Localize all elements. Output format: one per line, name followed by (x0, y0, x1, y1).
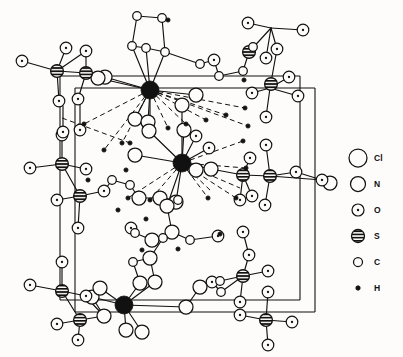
atom-c (108, 176, 117, 185)
atom-o (56, 256, 68, 268)
atom-n (97, 309, 111, 323)
legend-label-c: C (374, 257, 380, 267)
atom-h (176, 247, 180, 251)
atom-h (204, 118, 208, 122)
atom-n (160, 199, 174, 213)
atom-o (260, 111, 272, 123)
atom-s (74, 190, 87, 203)
atom-c (131, 229, 140, 238)
atom-o (80, 163, 92, 175)
atom-h (86, 178, 90, 182)
atom-s (74, 314, 87, 327)
legend-symbol-cl (349, 149, 367, 167)
atom-o (242, 17, 254, 29)
atom-c (186, 236, 195, 245)
atom-o (244, 152, 256, 164)
atom-o (316, 174, 328, 186)
atom-n (135, 325, 149, 339)
atom-o (53, 95, 65, 107)
atom-o (60, 42, 72, 54)
atom-s (237, 169, 250, 182)
atom-o (262, 265, 274, 277)
atom-o (297, 24, 309, 36)
atom-o (72, 222, 84, 234)
atom-s (80, 67, 93, 80)
atom-n (179, 300, 193, 314)
atom-o (72, 334, 84, 346)
atom-c (133, 12, 142, 21)
atom-s (265, 78, 278, 91)
atom-o (208, 54, 220, 66)
atom-o (260, 52, 272, 64)
atom-c (174, 196, 183, 205)
atom-h (144, 217, 148, 221)
atom-o (246, 87, 258, 99)
atom-o (259, 199, 271, 211)
atom-h (166, 126, 170, 130)
atom-o (24, 279, 36, 291)
atom-o (98, 185, 110, 197)
atom-h (166, 18, 170, 22)
atom-c (239, 67, 248, 76)
atom-h (102, 148, 106, 152)
structure-canvas: ClNOSCH (0, 0, 403, 357)
atom-o (246, 190, 258, 202)
atom-c (142, 44, 151, 53)
atom-h (206, 196, 210, 200)
atom-h (246, 124, 250, 128)
legend-symbol-n (351, 177, 366, 192)
atom-cl (173, 154, 191, 172)
atom-o (262, 286, 274, 298)
atom-c (128, 42, 137, 51)
atom-n (175, 98, 189, 112)
atom-o (260, 139, 272, 151)
atom-h (242, 78, 246, 82)
atom-h (184, 122, 188, 126)
atom-h (224, 113, 228, 117)
atom-c (159, 234, 168, 243)
atom-s (56, 158, 69, 171)
atom-c (126, 181, 135, 190)
atom-h (234, 196, 238, 200)
crystal-structure-figure: ClNOSCH (0, 0, 403, 357)
atom-o (234, 296, 246, 308)
atom-n (128, 148, 142, 162)
atom-h (244, 166, 248, 170)
atom-h (120, 141, 124, 145)
atom-h (218, 232, 222, 236)
atom-h (140, 248, 144, 252)
atom-o (283, 71, 295, 83)
atom-n (204, 162, 218, 176)
atom-n (142, 124, 156, 138)
legend-label-n: N (374, 179, 380, 189)
atom-s (260, 314, 273, 327)
atom-h (116, 208, 120, 212)
atom-c (217, 288, 226, 297)
legend-symbol-c (354, 258, 363, 267)
atom-c (216, 277, 225, 286)
atom-n (143, 251, 157, 265)
atom-n (128, 112, 142, 126)
atom-n (148, 275, 162, 289)
atom-o (80, 45, 92, 57)
atom-h (126, 196, 130, 200)
atom-s (264, 170, 277, 183)
atom-o (203, 142, 215, 154)
atom-h (124, 168, 128, 172)
atom-o (51, 194, 63, 206)
atom-n (145, 233, 159, 247)
atom-s (56, 285, 69, 298)
atom-n (93, 281, 107, 295)
atom-o (16, 55, 28, 67)
atom-o (290, 166, 302, 178)
atom-n (189, 163, 203, 177)
legend-label-h: H (374, 283, 380, 293)
atom-o (286, 316, 298, 328)
atom-o (262, 339, 274, 351)
atom-o (72, 93, 84, 105)
legend-symbol-s (352, 230, 365, 243)
atom-n (119, 323, 133, 337)
atom-cl (115, 296, 133, 314)
atom-n (193, 280, 207, 294)
atom-c (158, 14, 167, 23)
